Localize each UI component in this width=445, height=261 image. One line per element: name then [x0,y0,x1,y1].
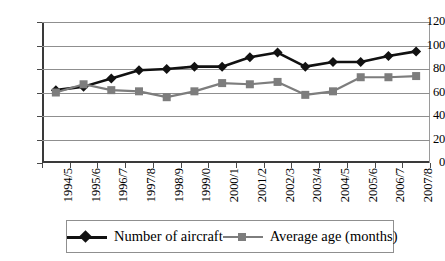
chart-container: 020406080100120 1994/51995/61996/71997/8… [0,0,445,261]
y-tick-mark [37,93,42,94]
legend-label-number-of-aircraft: Number of aircraft [114,229,223,244]
y-tick-label: 120 [409,15,445,28]
y-tick-mark [37,140,42,141]
x-tick-label: 2005/6 [367,168,380,202]
x-tick-label: 2007/8 [422,168,435,202]
y-tick-label: 60 [409,86,445,99]
x-tick-label: 2004/5 [339,168,352,202]
gridline [42,116,430,117]
y-tick-label: 40 [409,109,445,122]
y-tick-label: 20 [409,133,445,146]
x-tick-label: 2002/3 [284,168,297,202]
x-tick-label: 2006/7 [394,168,407,202]
x-tick-label: 1998/9 [173,168,186,202]
y-tick-mark [37,46,42,47]
y-tick-mark [37,69,42,70]
gridline [42,140,430,141]
x-tick-label: 2001/2 [256,168,269,202]
gridline [42,93,430,94]
x-tick-label: 1999/0 [200,168,213,202]
x-tick-label: 2000/1 [228,168,241,202]
x-tick-label: 1996/7 [117,168,130,202]
legend-item-average-age: Average age (months) [223,229,398,244]
square-marker-icon [223,230,263,244]
y-tick-mark [37,116,42,117]
legend-label-average-age: Average age (months) [270,229,398,244]
x-tick-label: 1995/6 [90,168,103,202]
x-tick-label: 1997/8 [145,168,158,202]
diamond-marker-icon [67,230,107,244]
x-tick-label: 1994/5 [62,168,75,202]
y-tick-label: 100 [409,39,445,52]
legend-item-number-of-aircraft: Number of aircraft [67,229,223,244]
y-tick-mark [37,22,42,23]
x-tick-label: 2003/4 [311,168,324,202]
y-tick-label: 80 [409,62,445,75]
gridline [42,22,430,23]
x-tick-mark [42,163,43,168]
chart-legend: Number of aircraft Average age (months) [66,220,394,253]
gridline [42,46,430,47]
y-tick-label: 0 [409,156,445,169]
gridline [42,69,430,70]
